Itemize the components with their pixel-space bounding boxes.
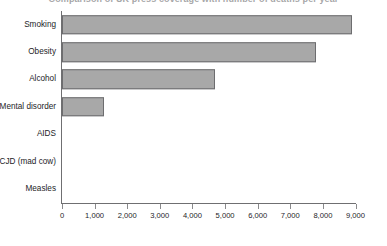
chart-row: Measles xyxy=(0,175,387,202)
x-axis-line xyxy=(61,203,356,204)
chart-row: Smoking xyxy=(0,11,387,38)
bar-chart-figure: Comparison of UK press coverage with num… xyxy=(0,0,387,246)
x-tick-label: 1,000 xyxy=(85,211,104,220)
bar-mental-disorder xyxy=(62,97,104,117)
chart-row: Mental disorder xyxy=(0,93,387,120)
category-label-vcjd: vCJD (mad cow) xyxy=(0,157,56,167)
x-tick-mark xyxy=(290,204,291,209)
bar-obesity xyxy=(62,42,316,62)
x-tick-label: 2,000 xyxy=(118,211,137,220)
x-tick-label: 3,000 xyxy=(150,211,169,220)
x-tick-mark xyxy=(62,204,63,209)
chart-row: Obesity xyxy=(0,38,387,65)
x-tick-mark xyxy=(95,204,96,209)
x-tick-label: 7,000 xyxy=(281,211,300,220)
chart-row: Alcohol xyxy=(0,66,387,93)
x-tick-mark xyxy=(225,204,226,209)
category-label-smoking: Smoking xyxy=(0,20,56,30)
bar-smoking xyxy=(62,15,352,35)
x-tick-label: 4,000 xyxy=(183,211,202,220)
x-tick-label: 9,000 xyxy=(346,211,365,220)
category-label-alcohol: Alcohol xyxy=(0,74,56,84)
category-label-mental-disorder: Mental disorder xyxy=(0,102,56,112)
x-tick-mark xyxy=(160,204,161,209)
chart-row: AIDS xyxy=(0,121,387,148)
category-label-obesity: Obesity xyxy=(0,47,56,57)
bar-alcohol xyxy=(62,70,215,90)
chart-row: vCJD (mad cow) xyxy=(0,148,387,175)
x-tick-mark xyxy=(192,204,193,209)
category-label-aids: AIDS xyxy=(0,129,56,139)
x-tick-label: 8,000 xyxy=(313,211,332,220)
x-tick-label: 6,000 xyxy=(248,211,267,220)
x-tick-mark xyxy=(127,204,128,209)
category-label-measles: Measles xyxy=(0,184,56,194)
x-tick-mark xyxy=(258,204,259,209)
x-tick-mark xyxy=(323,204,324,209)
x-tick-label: 5,000 xyxy=(216,211,235,220)
x-tick-label: 0 xyxy=(60,211,64,220)
chart-title: Comparison of UK press coverage with num… xyxy=(0,0,387,5)
x-tick-mark xyxy=(356,204,357,209)
